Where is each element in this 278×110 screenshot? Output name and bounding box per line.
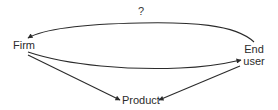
node-end-user-line1: End bbox=[243, 43, 265, 55]
firm-enduser-product-diagram: ? Firm End user Product bbox=[0, 0, 278, 110]
node-firm: Firm bbox=[13, 39, 35, 51]
edge-firm-to-product-arrow bbox=[28, 55, 120, 100]
node-product: Product bbox=[122, 94, 160, 106]
edge-label-question-mark: ? bbox=[138, 5, 144, 17]
edge-firm-to-enduser-arrow bbox=[28, 52, 241, 68]
edge-enduser-to-product-arrow bbox=[159, 66, 240, 100]
node-end-user-line2: user bbox=[243, 55, 265, 67]
node-end-user: End user bbox=[243, 43, 265, 67]
edge-enduser-to-firm-arrow bbox=[28, 23, 254, 42]
